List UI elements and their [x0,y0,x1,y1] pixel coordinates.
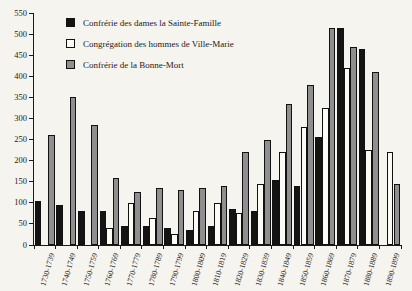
bar-confrerie-dames-sainte-famille [143,226,150,245]
bar-confrerie-bonne-mort [48,135,55,245]
bar-congregation-hommes-ville-marie [171,234,178,245]
x-axis-tick [228,245,229,249]
y-axis-label: 450 [1,51,27,60]
x-axis-tick [120,245,121,249]
x-axis-tick [163,245,164,249]
x-axis-label: 1830-1839 [254,252,272,287]
x-axis-tick [379,245,380,249]
x-axis-tick [77,245,78,249]
y-axis-tick [29,55,33,56]
bar-confrerie-dames-sainte-famille [251,211,258,245]
x-axis-label: 1840-1849 [276,252,294,287]
y-axis-tick [29,223,33,224]
bar-congregation-hommes-ville-marie [214,203,221,245]
y-axis-tick [29,160,33,161]
bar-congregation-hommes-ville-marie [365,150,372,245]
x-axis-label: 1760-1769 [103,252,121,287]
bar-confrerie-dames-sainte-famille [56,205,63,245]
bar-confrerie-bonne-mort [242,152,249,245]
x-axis-tick [336,245,337,249]
y-axis-tick [29,76,33,77]
bar-confrerie-bonne-mort [156,188,163,245]
bar-confrerie-bonne-mort [134,192,141,245]
y-axis-tick [29,13,33,14]
x-axis-label: 1860-1869 [319,252,337,287]
x-axis-tick [55,245,56,249]
y-axis-label: 250 [1,135,27,144]
bar-confrerie-dames-sainte-famille [121,226,128,245]
x-axis-label: 1790-1799 [168,252,186,287]
x-axis-label: 1850-1859 [297,252,315,287]
x-axis-tick [98,245,99,249]
x-axis-tick [293,245,294,249]
x-axis-tick [206,245,207,249]
y-axis-tick [29,97,33,98]
y-axis-tick [29,139,33,140]
bar-congregation-hommes-ville-marie [128,203,135,245]
x-axis-label: 1740-1749 [60,252,78,287]
bar-confrerie-bonne-mort [286,104,293,245]
y-axis-label: 50 [1,219,27,228]
y-axis-label: 0 [1,241,27,250]
x-axis-tick [185,245,186,249]
bar-congregation-hommes-ville-marie [149,218,156,245]
bar-confrerie-bonne-mort [329,28,336,245]
bar-congregation-hommes-ville-marie [279,152,286,245]
bar-confrerie-bonne-mort [307,85,314,245]
y-axis-label: 350 [1,93,27,102]
bar-confrerie-bonne-mort [178,190,185,245]
plot-area: 0501001502002503003504004505005501730-17… [33,13,401,246]
x-axis-label: 1770-1779 [124,252,142,287]
bar-confrerie-bonne-mort [91,125,98,245]
x-axis-tick [401,245,402,249]
bar-confrerie-bonne-mort [350,47,357,245]
bar-congregation-hommes-ville-marie [106,228,113,245]
bar-confrerie-bonne-mort [394,184,401,245]
y-axis-tick [29,181,33,182]
bar-congregation-hommes-ville-marie [236,213,243,245]
x-axis-tick [141,245,142,249]
scanned-chart-page: Confrérie des dames la Sainte-Famille Co… [0,0,412,291]
x-axis-label: 1870-1879 [340,252,358,287]
x-axis-label: 1730-1739 [38,252,56,287]
bar-confrerie-dames-sainte-famille [229,209,236,245]
y-axis-label: 100 [1,198,27,207]
x-axis-label: 1800-1809 [189,252,207,287]
bar-confrerie-dames-sainte-famille [186,230,193,245]
y-axis-label: 500 [1,30,27,39]
x-axis-label: 1820-1829 [232,252,250,287]
bar-confrerie-bonne-mort [70,97,77,245]
bar-congregation-hommes-ville-marie [257,184,264,245]
x-axis-tick [314,245,315,249]
y-axis-label: 400 [1,72,27,81]
bar-confrerie-dames-sainte-famille [100,211,107,245]
y-axis-label: 200 [1,156,27,165]
y-axis-tick [29,118,33,119]
bar-confrerie-bonne-mort [264,140,271,245]
bar-confrerie-dames-sainte-famille [337,28,344,245]
bar-confrerie-dames-sainte-famille [164,228,171,245]
bar-congregation-hommes-ville-marie [322,108,329,245]
x-axis-label: 1780-1789 [146,252,164,287]
y-axis-label: 300 [1,114,27,123]
y-axis-label: 550 [1,9,27,18]
bar-confrerie-dames-sainte-famille [78,211,85,245]
bar-congregation-hommes-ville-marie [193,211,200,245]
bar-confrerie-dames-sainte-famille [35,201,42,245]
bar-confrerie-bonne-mort [372,72,379,245]
x-axis-label: 1750-1759 [81,252,99,287]
bar-confrerie-dames-sainte-famille [208,226,215,245]
x-axis-tick [357,245,358,249]
x-axis-tick [34,245,35,249]
bar-confrerie-bonne-mort [113,178,120,245]
x-axis-label: 1880-1889 [362,252,380,287]
x-axis-tick [271,245,272,249]
x-axis-tick [249,245,250,249]
y-axis-label: 150 [1,177,27,186]
x-axis-label: 1890-1899 [383,252,401,287]
bar-congregation-hommes-ville-marie [387,152,394,245]
x-axis-label: 1810-1819 [211,252,229,287]
bar-confrerie-dames-sainte-famille [272,180,279,245]
y-axis-tick [29,202,33,203]
bar-confrerie-bonne-mort [221,186,228,245]
